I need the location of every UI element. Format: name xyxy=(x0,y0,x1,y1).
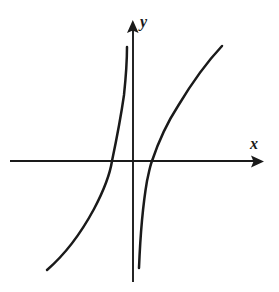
curve-right-branch xyxy=(139,46,222,268)
curve-left-branch xyxy=(47,47,127,270)
y-axis-label: y xyxy=(140,14,147,30)
figure-container: y x xyxy=(0,0,279,292)
plot-canvas xyxy=(0,0,279,292)
x-axis-label: x xyxy=(250,136,258,152)
